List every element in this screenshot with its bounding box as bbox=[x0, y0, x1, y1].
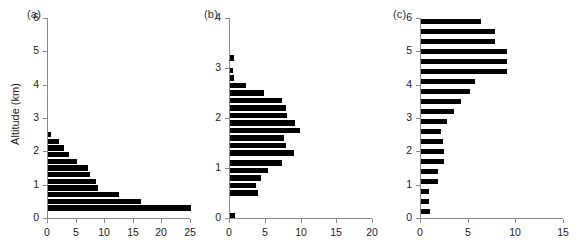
x-tick-label: 10 bbox=[281, 226, 321, 238]
x-tick bbox=[76, 219, 77, 223]
y-tick-label: 1 bbox=[388, 178, 412, 190]
y-tick-label: 3 bbox=[15, 111, 39, 123]
bar bbox=[421, 119, 447, 124]
x-tick bbox=[515, 219, 516, 223]
y-tick bbox=[416, 118, 420, 119]
bar bbox=[48, 139, 59, 144]
x-tick bbox=[104, 219, 105, 223]
y-tick bbox=[43, 51, 47, 52]
bar bbox=[230, 175, 261, 181]
bar bbox=[421, 149, 444, 154]
panel-a: (a) Altitude (km) 01234560510152025 bbox=[0, 0, 200, 248]
y-tick-label: 6 bbox=[388, 11, 412, 23]
y-tick-label: 2 bbox=[388, 144, 412, 156]
x-axis-line bbox=[47, 218, 190, 219]
y-tick-label: 1 bbox=[197, 161, 221, 173]
x-tick bbox=[265, 219, 266, 223]
y-tick-label: 0 bbox=[15, 211, 39, 223]
bar bbox=[421, 139, 443, 144]
bar bbox=[421, 79, 475, 84]
x-tick bbox=[229, 219, 230, 223]
x-tick bbox=[372, 219, 373, 223]
y-tick-label: 3 bbox=[388, 111, 412, 123]
y-tick bbox=[43, 18, 47, 19]
x-tick bbox=[133, 219, 134, 223]
bar bbox=[421, 39, 495, 44]
y-tick-label: 3 bbox=[197, 61, 221, 73]
bar bbox=[421, 99, 461, 104]
x-tick bbox=[190, 219, 191, 223]
x-tick bbox=[161, 219, 162, 223]
bar bbox=[230, 55, 234, 61]
y-tick bbox=[416, 18, 420, 19]
x-tick bbox=[47, 219, 48, 223]
bar bbox=[48, 172, 90, 177]
y-tick-label: 5 bbox=[388, 44, 412, 56]
y-tick-label: 2 bbox=[15, 144, 39, 156]
bar bbox=[48, 192, 119, 197]
bar bbox=[421, 19, 481, 24]
bar bbox=[230, 143, 286, 149]
bar bbox=[48, 179, 96, 184]
bar bbox=[230, 183, 256, 189]
y-tick bbox=[225, 68, 229, 69]
y-tick bbox=[416, 51, 420, 52]
bar bbox=[230, 128, 300, 134]
x-tick-label: 0 bbox=[400, 226, 440, 238]
bar bbox=[230, 113, 287, 119]
x-axis-line bbox=[420, 218, 563, 219]
y-tick bbox=[225, 168, 229, 169]
bar bbox=[230, 120, 295, 126]
bar bbox=[48, 132, 51, 137]
bar bbox=[230, 160, 282, 166]
bar bbox=[230, 105, 286, 111]
bar bbox=[421, 199, 429, 204]
bar bbox=[48, 159, 77, 164]
y-tick bbox=[43, 185, 47, 186]
x-tick bbox=[301, 219, 302, 223]
y-tick bbox=[416, 151, 420, 152]
panel-c: (c) 0123456051015 bbox=[385, 0, 585, 248]
panel-b: (b) 0123405101520 bbox=[196, 0, 391, 248]
bar bbox=[421, 59, 507, 64]
x-tick bbox=[468, 219, 469, 223]
x-tick-label: 0 bbox=[209, 226, 249, 238]
y-tick-label: 0 bbox=[197, 211, 221, 223]
y-tick bbox=[416, 185, 420, 186]
y-tick-label: 6 bbox=[15, 11, 39, 23]
bar bbox=[421, 49, 507, 54]
x-tick-label: 5 bbox=[448, 226, 488, 238]
x-tick bbox=[336, 219, 337, 223]
panel-a-plot: 01234560510152025 bbox=[47, 18, 190, 218]
bar bbox=[230, 90, 264, 96]
y-tick-label: 4 bbox=[15, 78, 39, 90]
bar bbox=[421, 179, 438, 184]
y-tick bbox=[225, 18, 229, 19]
bar bbox=[48, 199, 141, 204]
y-tick-label: 5 bbox=[15, 44, 39, 56]
y-tick-label: 0 bbox=[388, 211, 412, 223]
bar bbox=[48, 165, 88, 170]
panel-c-plot: 0123456051015 bbox=[420, 18, 563, 218]
bar bbox=[230, 168, 268, 174]
x-tick bbox=[563, 219, 564, 223]
figure-three-altitude-histograms: (a) Altitude (km) 01234560510152025 (b) … bbox=[0, 0, 585, 248]
bar bbox=[421, 109, 454, 114]
y-tick bbox=[225, 118, 229, 119]
bar bbox=[421, 29, 495, 34]
bar bbox=[230, 98, 282, 104]
bar bbox=[230, 190, 258, 196]
x-tick-label: 15 bbox=[543, 226, 583, 238]
bar bbox=[230, 68, 233, 74]
y-tick-label: 4 bbox=[197, 11, 221, 23]
bar bbox=[48, 185, 98, 190]
panel-b-plot: 0123405101520 bbox=[229, 18, 372, 218]
bar bbox=[230, 83, 246, 89]
bar bbox=[230, 213, 235, 219]
bar bbox=[421, 69, 507, 74]
bar bbox=[421, 89, 470, 94]
bar bbox=[421, 159, 444, 164]
bar bbox=[230, 75, 234, 81]
x-tick-label: 15 bbox=[316, 226, 356, 238]
y-tick bbox=[43, 118, 47, 119]
